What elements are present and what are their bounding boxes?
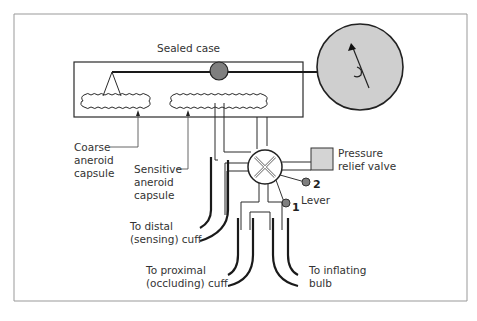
- sensitive-capsule-bellows: [170, 94, 267, 109]
- sensitive-leader-arrow-icon: [186, 110, 190, 116]
- sensitive-capsule-label: Sensitive aneroid capsule: [134, 163, 182, 202]
- relief-valve-icon: [311, 148, 333, 170]
- proximal-cuff-label: To proximal (occluding) cuff: [146, 264, 228, 290]
- coarse-leader-arrow-icon: [136, 110, 140, 116]
- diagram-canvas: [0, 0, 477, 321]
- inflating-bulb-label: To inflating bulb: [309, 264, 366, 290]
- lever-arm-1: [276, 180, 284, 202]
- coarse-linkage: [103, 72, 121, 96]
- lever-position-1-label: 1: [292, 201, 300, 214]
- lever-position-2-label: 2: [313, 178, 321, 191]
- distal-cuff-tube-a: [200, 157, 211, 228]
- coarse-capsule-bellows: [81, 94, 150, 109]
- proximal-cuff-tube-a: [228, 218, 238, 275]
- bulb-tube-b: [288, 218, 298, 275]
- lever-label: Lever: [301, 194, 330, 207]
- distal-cuff-tube-b: [200, 160, 228, 241]
- outer-frame: [14, 14, 226, 150]
- pressure-relief-valve-label: Pressure relief valve: [338, 147, 396, 173]
- lever-position-1-icon: [282, 199, 290, 207]
- lever-arm-2: [280, 175, 305, 182]
- sensitive-leader: [176, 113, 188, 169]
- coarse-capsule-label: Coarse aneroid capsule: [74, 141, 114, 180]
- sealed-case-label: Sealed case: [157, 42, 220, 55]
- lever-position-2-icon: [302, 178, 310, 186]
- distal-cuff-label: To distal (sensing) cuff: [130, 220, 202, 246]
- bulb-tube-a: [273, 218, 298, 286]
- pivot-icon: [210, 62, 228, 80]
